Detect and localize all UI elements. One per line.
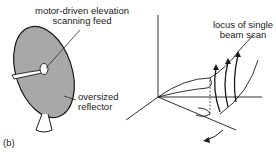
feed-horn (40, 64, 48, 75)
reflector-label: oversized reflector (78, 92, 119, 112)
base-sweep (196, 108, 210, 116)
locus-label-line2: beam scan (210, 30, 276, 40)
beam-lobe (158, 78, 211, 97)
feed-label: motor-driven elevation scanning feed (26, 6, 138, 26)
locus-label: locus of single beam scan (210, 20, 276, 40)
reflector-label-line2: reflector (78, 102, 119, 112)
rotation-arrowhead (203, 137, 210, 143)
feed-label-line2: scanning feed (26, 16, 138, 26)
panel-label: (b) (3, 138, 15, 148)
